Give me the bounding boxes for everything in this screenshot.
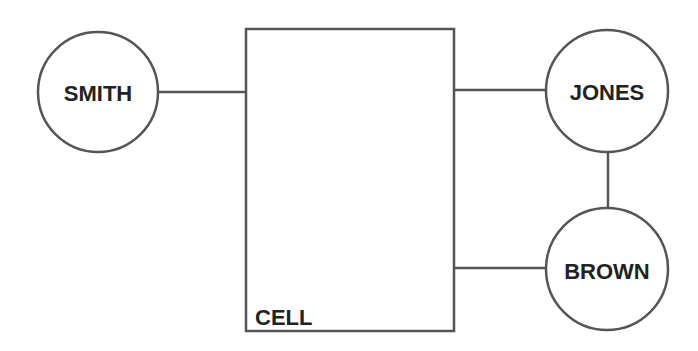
node-smith-label: SMITH [64,81,132,106]
node-brown-label: BROWN [564,259,650,284]
diagram-canvas: CELL SMITH JONES BROWN [0,0,698,351]
cell-label: CELL [255,305,312,330]
node-jones-label: JONES [570,80,645,105]
cell-box [246,29,454,331]
